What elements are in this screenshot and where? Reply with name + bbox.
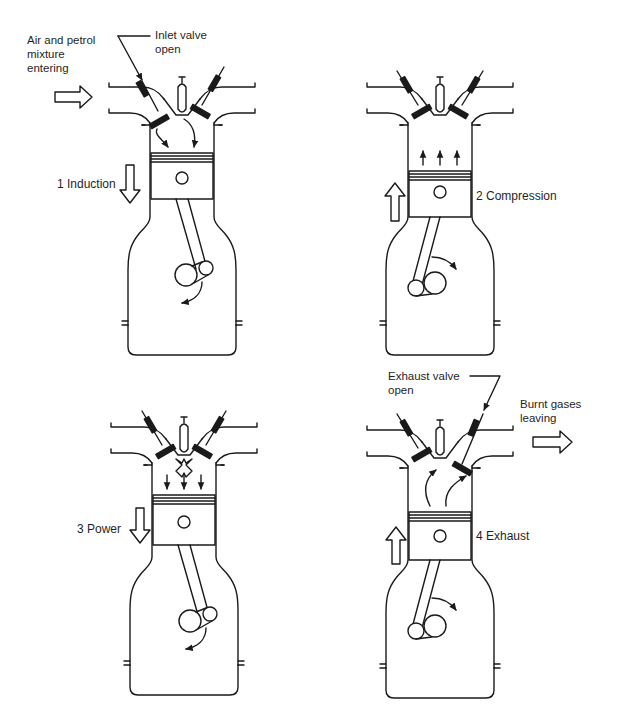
exhaust-callout-pointer — [470, 376, 500, 410]
panel-induction — [109, 67, 255, 355]
callout-exhaust-valve-open: Exhaust valve open — [388, 369, 460, 397]
panel-power — [111, 411, 257, 695]
mixture-inflow-arrow — [55, 86, 92, 108]
stroke-label-induction: 1 Induction — [57, 177, 116, 191]
piston — [151, 153, 213, 199]
piston-down-arrow — [130, 508, 150, 543]
piston — [409, 171, 471, 217]
inlet-valve-closed — [397, 414, 432, 462]
engine-diagram — [0, 0, 618, 725]
burnt-gases-outflow-arrow — [533, 431, 572, 453]
stroke-label-exhaust: 4 Exhaust — [476, 529, 529, 543]
callout-air-petrol-mixture: Air and petrol mixture entering — [27, 33, 95, 75]
exhaust-valve-closed — [190, 67, 224, 119]
piston-down-arrow — [120, 165, 140, 203]
stroke-label-power: 3 Power — [77, 522, 121, 536]
piston-up-arrow — [386, 527, 406, 564]
inlet-callout-pointer — [118, 36, 142, 80]
stroke-label-compression: 2 Compression — [476, 189, 557, 203]
piston — [153, 495, 215, 545]
panel-compression — [367, 71, 513, 355]
callout-burnt-gases-leaving: Burnt gases leaving — [520, 397, 581, 425]
piston-up-arrow — [385, 183, 405, 221]
ignition-burst-icon — [176, 459, 192, 477]
inlet-valve-open — [136, 81, 169, 129]
crank-rotation-arrow — [432, 257, 456, 269]
panel-exhaust — [367, 414, 513, 698]
crank-rotation-arrow — [432, 598, 456, 610]
callout-inlet-valve-open: Inlet valve open — [155, 28, 207, 56]
piston — [409, 512, 471, 560]
exhaust-valve-open — [452, 414, 483, 476]
